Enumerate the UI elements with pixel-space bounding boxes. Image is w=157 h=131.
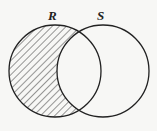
venn-diagram: R S <box>0 0 157 131</box>
set-s-label: S <box>97 8 104 23</box>
set-r-label: R <box>47 8 57 23</box>
shaded-region-r-minus-s <box>0 0 157 131</box>
